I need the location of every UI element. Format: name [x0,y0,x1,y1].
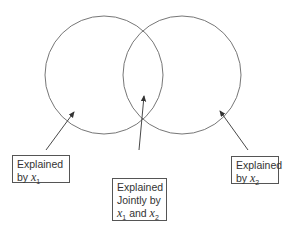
subscript: 2 [255,179,259,186]
label-explained-jointly: Explained Jointly by x1 and x2 [112,178,167,221]
label-line: by x2 [236,172,274,189]
label-line: x1 and x2 [117,207,162,224]
label-text: and [126,207,149,219]
arrow-middle [139,96,144,150]
label-line: Explained [17,158,65,171]
label-text: by [236,172,250,184]
circle-x1 [45,16,163,134]
arrow-right [220,111,248,150]
subscript: 2 [155,214,159,221]
label-line: Explained [117,181,162,194]
label-line: by x1 [17,171,65,188]
subscript: 1 [36,178,40,185]
arrow-left [46,112,74,150]
label-explained-by-x1: Explained by x1 [12,155,70,183]
label-explained-by-x2: Explained by x2 [231,156,279,184]
label-line: Jointly by [117,194,162,207]
label-text: by [17,171,31,183]
